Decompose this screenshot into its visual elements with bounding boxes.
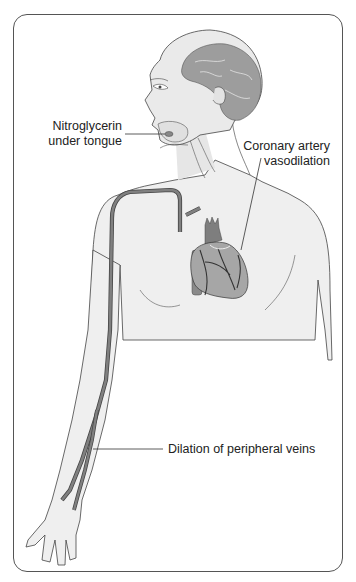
nitro-label: Nitroglycerin under tongue bbox=[40, 119, 122, 149]
nitro-label-line2: under tongue bbox=[40, 134, 122, 149]
coronary-label: Coronary artery vasodilation bbox=[232, 139, 330, 169]
anatomy-illustration bbox=[0, 0, 356, 582]
coronary-label-line1: Coronary artery bbox=[232, 139, 330, 154]
veins-label: Dilation of peripheral veins bbox=[168, 442, 315, 457]
head bbox=[145, 30, 262, 148]
nitro-label-line1: Nitroglycerin bbox=[40, 119, 122, 134]
coronary-label-line2: vasodilation bbox=[232, 154, 330, 169]
nitroglycerin-tablet bbox=[165, 132, 173, 137]
